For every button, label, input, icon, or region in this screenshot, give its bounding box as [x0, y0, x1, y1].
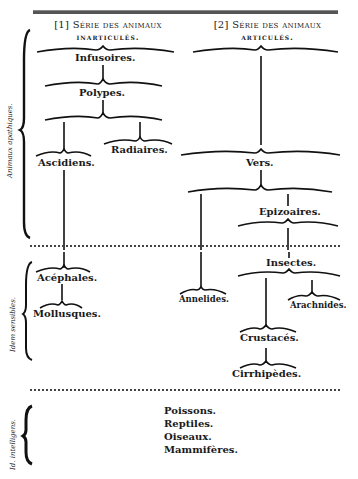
- list-item-poissons: Poissons.: [164, 404, 238, 417]
- list-item-oiseaux: Oiseaux.: [164, 430, 238, 443]
- node-cirrhipedes: Cirrhipèdes.: [232, 368, 301, 379]
- node-radiaires: Radiaires.: [111, 144, 168, 155]
- node-acephales: Acéphales.: [37, 272, 97, 283]
- node-vers: Vers.: [246, 157, 274, 168]
- side-label-apathiques: Animaux apathiques.: [6, 103, 14, 178]
- separator-sensibles-intelligens: [30, 389, 340, 391]
- side-label-sensibles: Idem sensibles.: [9, 297, 17, 352]
- node-mollusques: Mollusques.: [33, 308, 101, 319]
- node-ascidiens: Ascidiens.: [38, 157, 95, 168]
- vertebrates-list: Poissons. Reptiles. Oiseaux. Mammifères.: [164, 404, 238, 456]
- node-annelides: Annelides.: [179, 294, 229, 304]
- node-infusoires: Infusoires.: [75, 52, 135, 63]
- separator-apathiques-sensibles: [30, 245, 340, 247]
- node-crustaces: Crustacés.: [240, 332, 299, 343]
- node-epizoaires: Epizoaires.: [259, 206, 321, 217]
- list-item-mammiferes: Mammifères.: [164, 443, 238, 456]
- node-arachnides: Arachnides.: [290, 300, 346, 310]
- node-polypes: Polypes.: [79, 87, 125, 98]
- node-insectes: Insectes.: [266, 257, 316, 268]
- list-item-reptiles: Reptiles.: [164, 417, 238, 430]
- side-label-intelligens: Id. intelligens.: [9, 419, 17, 470]
